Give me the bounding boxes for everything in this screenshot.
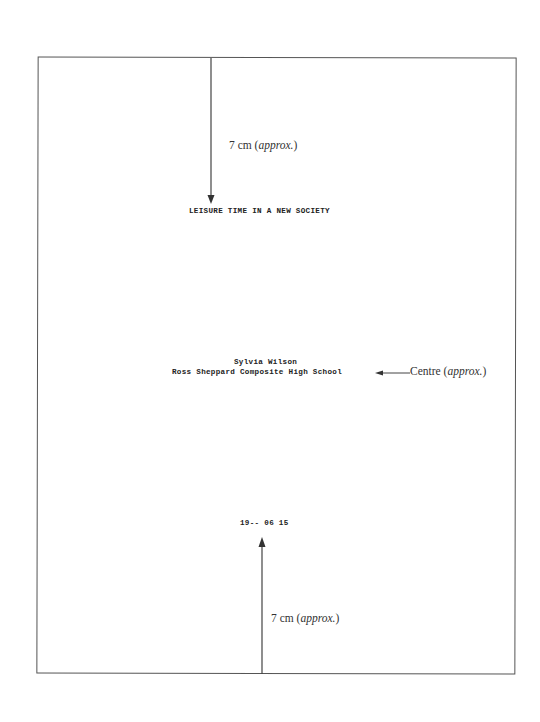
essay-title: LEISURE TIME IN A NEW SOCIETY [189,207,330,215]
centre-note: Centre (approx.) [410,365,486,377]
bottom-distance-value: 7 cm [271,612,294,624]
bottom-distance-qualifier: approx. [300,612,335,624]
bottom-distance-note: 7 cm (approx.) [271,612,339,624]
top-distance-qualifier: approx. [258,139,293,151]
top-distance-note: 7 cm (approx.) [229,139,297,151]
centre-qualifier: approx. [447,365,482,377]
school-name: Ross Sheppard Composite High School [172,368,342,376]
essay-date: 19-- 06 15 [240,519,289,527]
centre-label: Centre [410,365,441,377]
author-name: Sylvia Wilson [234,358,297,366]
paren-close: ) [335,612,339,624]
paren-close: ) [482,365,486,377]
paren-close: ) [293,139,297,151]
top-distance-value: 7 cm [229,139,252,151]
